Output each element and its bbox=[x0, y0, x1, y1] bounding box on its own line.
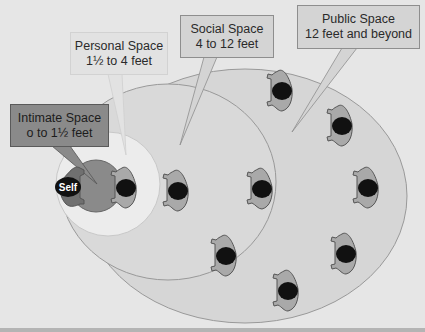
self-label: Self bbox=[59, 182, 78, 193]
social-space-callout: Social Space 4 to 12 feet bbox=[180, 15, 274, 58]
personal-space-callout: Personal Space 1½ to 4 feet bbox=[70, 32, 168, 75]
social-space-range: 4 to 12 feet bbox=[181, 37, 273, 52]
public-space-callout: Public Space 12 feet and beyond bbox=[297, 5, 420, 49]
public-space-range: 12 feet and beyond bbox=[298, 27, 419, 42]
proxemics-diagram: Self Intimate Space o to 1½ feet Persona… bbox=[0, 0, 425, 332]
bottom-border bbox=[0, 328, 425, 332]
personal-space-range: 1½ to 4 feet bbox=[71, 54, 167, 69]
public-space-title: Public Space bbox=[298, 12, 419, 27]
social-space-title: Social Space bbox=[181, 22, 273, 37]
intimate-space-title: Intimate Space bbox=[11, 111, 108, 126]
intimate-space-callout: Intimate Space o to 1½ feet bbox=[10, 104, 109, 147]
personal-space-title: Personal Space bbox=[71, 39, 167, 54]
intimate-space-range: o to 1½ feet bbox=[11, 126, 108, 141]
